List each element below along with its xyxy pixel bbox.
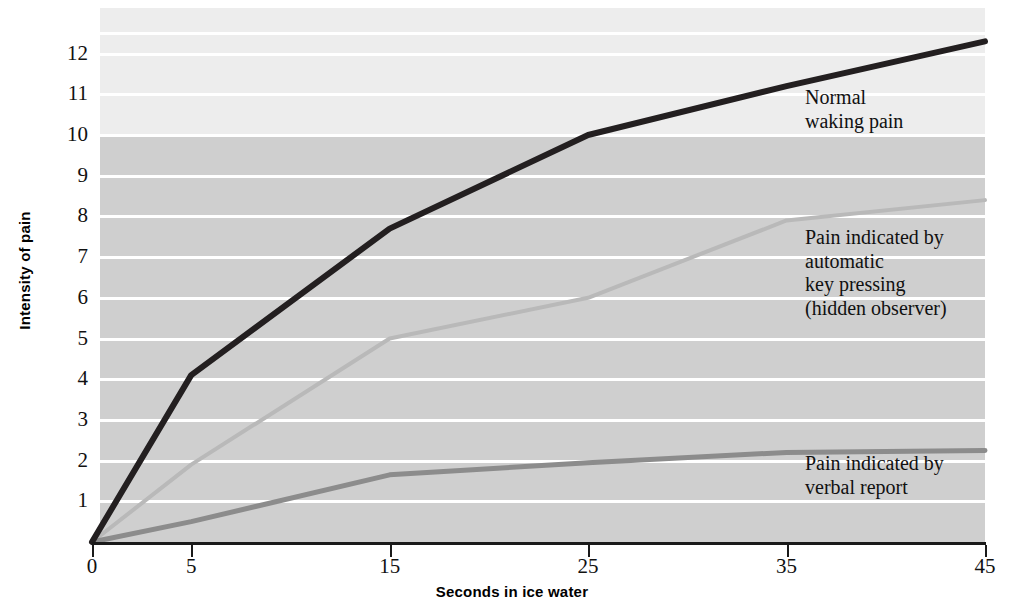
pain-intensity-chart: 0515253545 123456789101112 Seconds in ic… (0, 0, 1024, 611)
y-tick-label: 12 (48, 43, 88, 64)
y-tick-label: 1 (48, 490, 88, 511)
gridline (100, 32, 985, 35)
y-axis-tick-labels: 123456789101112 (40, 0, 88, 611)
y-tick-label: 9 (48, 165, 88, 186)
y-tick-label: 11 (48, 83, 88, 104)
y-tick-label: 8 (48, 205, 88, 226)
gridline (100, 215, 985, 218)
x-tick-label: 15 (379, 556, 400, 577)
gridline (100, 53, 985, 56)
gridline (100, 419, 985, 422)
y-tick-label: 4 (48, 368, 88, 389)
gridline (100, 134, 985, 137)
annotation-hidden-observer: Pain indicated by automatic key pressing… (805, 226, 947, 320)
x-tick-label: 0 (87, 556, 98, 577)
gridline (100, 338, 985, 341)
y-tick-label: 5 (48, 328, 88, 349)
x-tick-label: 25 (578, 556, 599, 577)
y-tick-label: 2 (48, 450, 88, 471)
gridline (100, 500, 985, 503)
x-tick-label: 35 (776, 556, 797, 577)
y-tick-label: 6 (48, 287, 88, 308)
y-axis-title: Intensity of pain (16, 181, 33, 361)
x-tick-label: 45 (975, 556, 996, 577)
annotation-verbal-report: Pain indicated by verbal report (805, 452, 944, 499)
x-tick-label: 5 (186, 556, 197, 577)
annotation-normal-waking-pain: Normal waking pain (805, 86, 903, 133)
gridline (100, 175, 985, 178)
y-tick-label: 7 (48, 246, 88, 267)
x-axis-title: Seconds in ice water (0, 583, 1024, 600)
y-tick-label: 10 (48, 124, 88, 145)
y-tick-label: 3 (48, 409, 88, 430)
gridline (100, 378, 985, 381)
x-axis-line (92, 542, 986, 545)
